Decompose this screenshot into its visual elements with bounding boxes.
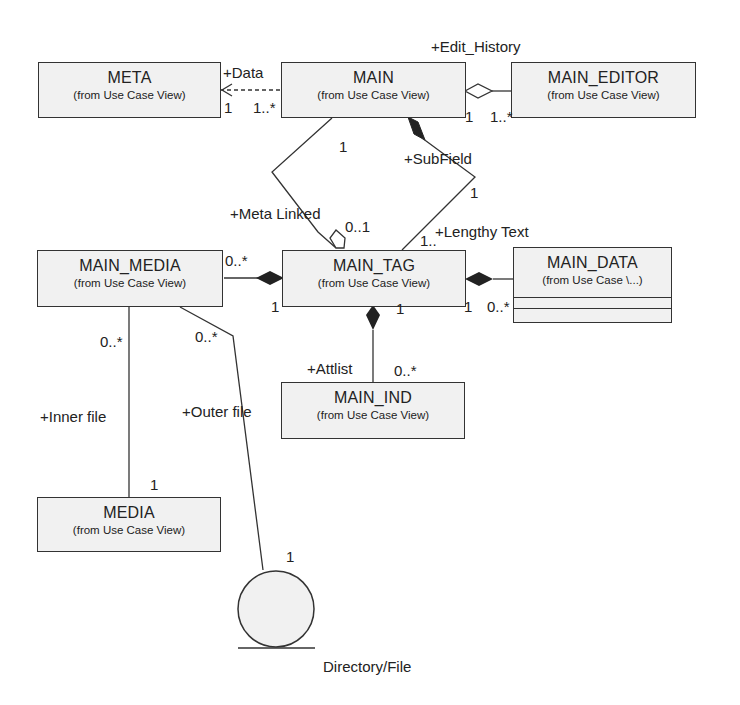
mult-tag-data-tag: 1 (464, 298, 472, 315)
mult-inner-media: 1 (150, 476, 158, 493)
role-subfield: +SubField (404, 150, 472, 167)
mult-attlist-tag: 1 (396, 300, 404, 317)
role-data: +Data (223, 64, 263, 81)
class-package: (from Use Case View) (282, 89, 465, 101)
class-main-data[interactable]: MAIN_DATA (from Use Case \...) (513, 247, 672, 323)
class-package: (from Use Case \...) (514, 274, 671, 286)
class-package: (from Use Case View) (283, 277, 465, 289)
class-name: MAIN_MEDIA (38, 257, 222, 275)
mult-tag-data-data: 0..* (487, 298, 510, 315)
mult-data-meta: 1 (224, 99, 232, 116)
class-package: (from Use Case View) (38, 277, 222, 289)
operations-compartment (514, 308, 671, 309)
class-name: MAIN (282, 69, 465, 87)
class-name: MAIN_TAG (283, 257, 465, 275)
class-meta[interactable]: META (from Use Case View) (38, 62, 221, 118)
class-name: META (39, 69, 220, 87)
mult-meta-linked-tag: 0..1 (345, 218, 370, 235)
mult-edit-editor: 1..* (490, 108, 513, 125)
mult-edit-main: 1 (465, 108, 473, 125)
mult-media-tag-media: 0..* (225, 252, 248, 269)
class-name: MAIN_DATA (514, 254, 671, 272)
class-main-tag[interactable]: MAIN_TAG (from Use Case View) (282, 250, 466, 307)
class-main-media[interactable]: MAIN_MEDIA (from Use Case View) (37, 250, 223, 307)
mult-data-main: 1..* (253, 99, 276, 116)
role-lengthy-text: +Lengthy Text (435, 223, 529, 240)
mult-outer-actor: 1 (286, 548, 294, 565)
class-media[interactable]: MEDIA (from Use Case View) (37, 497, 221, 552)
role-outer-file: +Outer file (182, 403, 252, 420)
class-main-ind[interactable]: MAIN_IND (from Use Case View) (281, 382, 465, 439)
class-main[interactable]: MAIN (from Use Case View) (281, 62, 466, 118)
class-name: MAIN_EDITOR (512, 69, 695, 87)
mult-media-tag-tag: 1 (271, 298, 279, 315)
mult-attlist-ind: 0..* (394, 362, 417, 379)
role-attlist: +Attlist (307, 360, 352, 377)
class-package: (from Use Case View) (512, 89, 695, 101)
mult-inner-media-main: 0..* (100, 333, 123, 350)
mult-outer-media-main: 0..* (195, 328, 218, 345)
mult-subfield-main: 1 (470, 184, 478, 201)
class-main-editor[interactable]: MAIN_EDITOR (from Use Case View) (511, 62, 696, 118)
class-package: (from Use Case View) (39, 89, 220, 101)
role-inner-file: +Inner file (40, 408, 106, 425)
role-meta-linked: +Meta Linked (230, 205, 320, 222)
actor-label: Directory/File (323, 658, 411, 675)
class-name: MEDIA (38, 504, 220, 522)
class-package: (from Use Case View) (282, 409, 464, 421)
role-edit-history: +Edit_History (431, 38, 521, 55)
class-package: (from Use Case View) (38, 524, 220, 536)
attributes-compartment (514, 297, 671, 298)
mult-meta-linked-main: 1 (339, 138, 347, 155)
class-name: MAIN_IND (282, 389, 464, 407)
